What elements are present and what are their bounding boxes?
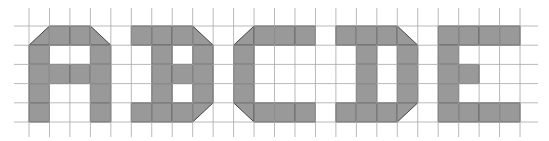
letter-cell [193, 103, 213, 122]
letter-cell [193, 26, 213, 45]
letter-cell [29, 103, 49, 122]
letter-cell [234, 26, 254, 45]
letter-cell [459, 64, 479, 83]
letter-cell [336, 103, 356, 122]
letter-cell [49, 64, 69, 83]
letter-cell [254, 103, 274, 122]
letter-cell [459, 103, 479, 122]
letter-cell [70, 64, 90, 83]
letter-cell [90, 103, 110, 122]
letter-cell [90, 84, 110, 103]
letter-cell [377, 26, 397, 45]
letter-cell [356, 84, 376, 103]
letter-cell [29, 84, 49, 103]
letter-cell [356, 26, 376, 45]
letter-cell [356, 103, 376, 122]
letter-cell [29, 45, 49, 64]
letter-cell [356, 45, 376, 64]
letter-cell [438, 84, 458, 103]
letter-cell [479, 103, 499, 122]
letter-cell [479, 26, 499, 45]
letter-cell [152, 103, 172, 122]
letter-cell [152, 64, 172, 83]
letter-cell [275, 103, 295, 122]
letter-cell [29, 26, 49, 45]
letter-cell [500, 103, 520, 122]
letter-cell [234, 45, 254, 64]
letter-cell [295, 103, 315, 122]
letter-cell [131, 103, 151, 122]
letter-cell [275, 26, 295, 45]
letter-cell [397, 84, 417, 103]
letter-cell [234, 84, 254, 103]
letter-cell [90, 64, 110, 83]
letter-cell [152, 26, 172, 45]
letter-cell [397, 45, 417, 64]
letter-cell [172, 26, 192, 45]
letter-cell [336, 26, 356, 45]
letter-cell [397, 103, 417, 122]
letter-grid-diagram: Pixel grid letters [0, 0, 549, 141]
letter-cell [172, 64, 192, 83]
letter-cell [295, 26, 315, 45]
letter-cell [90, 45, 110, 64]
letter-cell [438, 45, 458, 64]
letter-cell [234, 103, 254, 122]
letter-cell [377, 103, 397, 122]
letter-cell [172, 103, 192, 122]
letter-cell [254, 26, 274, 45]
letter-cell [500, 26, 520, 45]
letter-cell [131, 26, 151, 45]
letter-cell [70, 26, 90, 45]
letter-cell [29, 64, 49, 83]
letter-cell [438, 103, 458, 122]
letter-cell [152, 84, 172, 103]
letter-cell [397, 64, 417, 83]
letter-cell [193, 45, 213, 64]
letter-cell [193, 84, 213, 103]
letter-cell [438, 64, 458, 83]
letter-cell [397, 26, 417, 45]
letter-cell [234, 64, 254, 83]
letter-cell [356, 64, 376, 83]
letter-cell [49, 26, 69, 45]
letter-cell [90, 26, 110, 45]
letter-cell [459, 26, 479, 45]
letter-cell [193, 64, 213, 83]
letter-cell [438, 26, 458, 45]
letter-cell [152, 45, 172, 64]
